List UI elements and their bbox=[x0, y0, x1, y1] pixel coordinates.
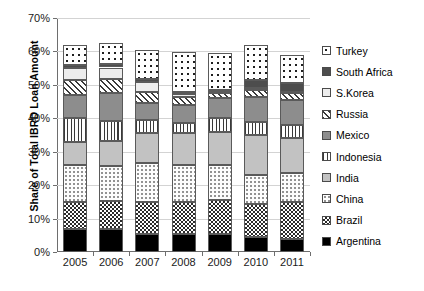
legend-item-brazil[interactable]: Brazil bbox=[322, 210, 422, 231]
bar-segment-india bbox=[63, 142, 87, 165]
bar-segment-china bbox=[135, 163, 159, 201]
bar-segment-russia bbox=[99, 79, 123, 92]
bar-segment-mexico bbox=[172, 105, 196, 123]
bar-segment-s-korea bbox=[63, 68, 87, 80]
legend-label: Russia bbox=[336, 108, 368, 120]
legend-label: S.Korea bbox=[336, 87, 374, 99]
legend-item-india[interactable]: India bbox=[322, 167, 422, 188]
legend-swatch-mexico-icon bbox=[322, 131, 331, 140]
bar-group[interactable] bbox=[172, 18, 196, 252]
bar-segment-south-africa bbox=[63, 65, 87, 68]
legend-item-skorea[interactable]: S.Korea bbox=[322, 82, 422, 103]
bar-segment-argentina bbox=[99, 229, 123, 252]
legend-swatch-southafrica-icon bbox=[322, 67, 331, 76]
bar-segment-turkey bbox=[63, 45, 87, 65]
bar-segment-brazil bbox=[208, 200, 232, 233]
bar-segment-russia bbox=[244, 90, 268, 97]
legend-label: Brazil bbox=[336, 214, 362, 226]
bar-segment-brazil bbox=[244, 204, 268, 237]
bar-segment-brazil bbox=[280, 202, 304, 239]
bar-segment-turkey bbox=[135, 50, 159, 78]
chart-legend: TurkeySouth AfricaS.KoreaRussiaMexicoInd… bbox=[322, 40, 422, 252]
bar-group[interactable] bbox=[208, 18, 232, 252]
y-axis-tick-label: 20% bbox=[28, 179, 50, 191]
bar-stack bbox=[208, 18, 232, 252]
bar-segment-south-africa bbox=[244, 80, 268, 88]
x-axis-tick-label: 2011 bbox=[272, 256, 312, 268]
bar-segment-mexico bbox=[208, 98, 232, 118]
bar-segment-argentina bbox=[208, 234, 232, 252]
bar-segment-turkey bbox=[172, 52, 196, 92]
bar-segment-india bbox=[244, 135, 268, 175]
bar-group[interactable] bbox=[244, 18, 268, 252]
bar-group[interactable] bbox=[135, 18, 159, 252]
bar-segment-india bbox=[172, 133, 196, 165]
x-axis-tick-label: 2010 bbox=[236, 256, 276, 268]
y-axis-tick-mark bbox=[53, 252, 57, 253]
y-axis-tick-label: 10% bbox=[28, 213, 50, 225]
bar-segment-argentina bbox=[280, 239, 304, 252]
legend-item-southafrica[interactable]: South Africa bbox=[322, 61, 422, 82]
bar-segment-mexico bbox=[135, 103, 159, 120]
legend-item-indonesia[interactable]: Indonesia bbox=[322, 146, 422, 167]
plot-area: 0%10%20%30%40%50%60%70% 2005200620072008… bbox=[57, 18, 310, 252]
bar-segment-russia bbox=[208, 93, 232, 98]
bar-segment-indonesia bbox=[208, 118, 232, 131]
legend-label: Argentina bbox=[336, 235, 381, 247]
bar-stack bbox=[244, 18, 268, 252]
bar-segment-mexico bbox=[244, 97, 268, 122]
legend-label: China bbox=[336, 193, 363, 205]
stacked-bar-chart: Share of Total IBRD Loan Amount 0%10%20%… bbox=[0, 0, 424, 291]
legend-item-turkey[interactable]: Turkey bbox=[322, 40, 422, 61]
bar-segment-india bbox=[135, 133, 159, 163]
bar-stack bbox=[280, 18, 304, 252]
bar-segment-south-africa bbox=[280, 83, 304, 91]
bar-segment-indonesia bbox=[172, 123, 196, 133]
bar-segment-s-korea bbox=[135, 82, 159, 92]
bar-segment-china bbox=[280, 173, 304, 201]
bar-segment-indonesia bbox=[63, 118, 87, 141]
bar-segment-china bbox=[63, 165, 87, 202]
y-axis-tick-label: 40% bbox=[28, 112, 50, 124]
bar-group[interactable] bbox=[280, 18, 304, 252]
bar-stack bbox=[135, 18, 159, 252]
bar-group[interactable] bbox=[99, 18, 123, 252]
legend-swatch-skorea-icon bbox=[322, 88, 331, 97]
bar-segment-south-africa bbox=[135, 79, 159, 82]
bar-stack bbox=[63, 18, 87, 252]
bar-segment-indonesia bbox=[244, 122, 268, 135]
x-axis-tick-label: 2008 bbox=[164, 256, 204, 268]
bar-stack bbox=[172, 18, 196, 252]
bar-segment-mexico bbox=[99, 93, 123, 121]
bar-group[interactable] bbox=[63, 18, 87, 252]
legend-item-china[interactable]: China bbox=[322, 188, 422, 209]
bar-segment-turkey bbox=[280, 55, 304, 83]
legend-item-argentina[interactable]: Argentina bbox=[322, 231, 422, 252]
legend-label: Turkey bbox=[336, 45, 368, 57]
bar-segment-india bbox=[208, 132, 232, 165]
x-axis-tick-label: 2007 bbox=[127, 256, 167, 268]
bar-segment-indonesia bbox=[280, 125, 304, 138]
legend-label: South Africa bbox=[336, 66, 393, 78]
bar-segment-s-korea bbox=[99, 68, 123, 80]
bar-segment-china bbox=[244, 175, 268, 203]
bar-segment-south-africa bbox=[99, 64, 123, 67]
legend-swatch-india-icon bbox=[322, 173, 331, 182]
legend-item-russia[interactable]: Russia bbox=[322, 104, 422, 125]
y-axis-tick-label: 60% bbox=[28, 45, 50, 57]
bar-segment-russia bbox=[172, 97, 196, 105]
bars-layer bbox=[57, 18, 310, 252]
bar-segment-argentina bbox=[244, 237, 268, 252]
legend-swatch-brazil-icon bbox=[322, 216, 331, 225]
bar-segment-turkey bbox=[208, 53, 232, 90]
legend-item-mexico[interactable]: Mexico bbox=[322, 125, 422, 146]
bar-segment-china bbox=[172, 165, 196, 202]
bar-segment-turkey bbox=[99, 43, 123, 64]
bar-segment-china bbox=[99, 166, 123, 201]
legend-label: Mexico bbox=[336, 129, 369, 141]
legend-swatch-russia-icon bbox=[322, 110, 331, 119]
x-axis-tick-label: 2006 bbox=[91, 256, 131, 268]
bar-segment-brazil bbox=[99, 201, 123, 228]
x-axis-tick-label: 2005 bbox=[55, 256, 95, 268]
bar-segment-russia bbox=[135, 92, 159, 104]
